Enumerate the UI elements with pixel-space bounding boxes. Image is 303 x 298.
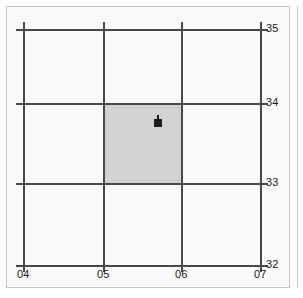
grid-line-horizontal-33 — [16, 183, 268, 185]
x-axis-tick-label-04: 04 — [17, 268, 30, 280]
site-marker-body — [154, 119, 162, 127]
grid-map-figure: 35 34 33 32 04 05 06 07 — [0, 0, 303, 298]
grid-line-horizontal-35 — [16, 29, 268, 31]
x-axis-tick-label-07: 07 — [254, 268, 267, 280]
y-axis-tick-label-35: 35 — [266, 22, 279, 34]
site-marker-icon[interactable] — [154, 115, 162, 127]
x-axis-tick-label-06: 06 — [175, 268, 188, 280]
grid-line-horizontal-34 — [16, 103, 268, 105]
y-axis-tick-label-32: 32 — [266, 258, 279, 270]
grid-line-vertical-05 — [103, 22, 105, 272]
right-edge-rule — [297, 6, 298, 288]
grid-line-vertical-04 — [23, 22, 25, 272]
grid-line-vertical-07 — [260, 22, 262, 272]
x-axis-tick-label-05: 05 — [97, 268, 110, 280]
y-axis-tick-label-34: 34 — [266, 96, 279, 108]
grid-line-vertical-06 — [181, 22, 183, 272]
grid-line-horizontal-32 — [16, 265, 268, 267]
highlighted-grid-square[interactable] — [103, 103, 181, 183]
y-axis-tick-label-33: 33 — [266, 176, 279, 188]
